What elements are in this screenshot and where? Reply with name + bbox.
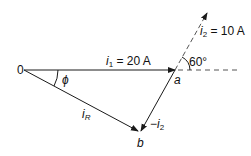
point-b-label: b	[137, 137, 144, 149]
i1-label: i1 = 20 A	[106, 55, 151, 69]
iR-vector	[24, 70, 138, 131]
point-a-label: a	[174, 74, 181, 86]
i2-label: i2 = 10 A	[200, 25, 245, 39]
angle-60-label: 60°	[189, 56, 207, 68]
phi-arc	[54, 70, 58, 86]
angle-phi-label: ϕ	[62, 74, 69, 86]
iR-label: iR	[82, 108, 90, 122]
neg-i2-label: −i2	[150, 118, 164, 132]
origin-label: 0	[17, 64, 24, 76]
